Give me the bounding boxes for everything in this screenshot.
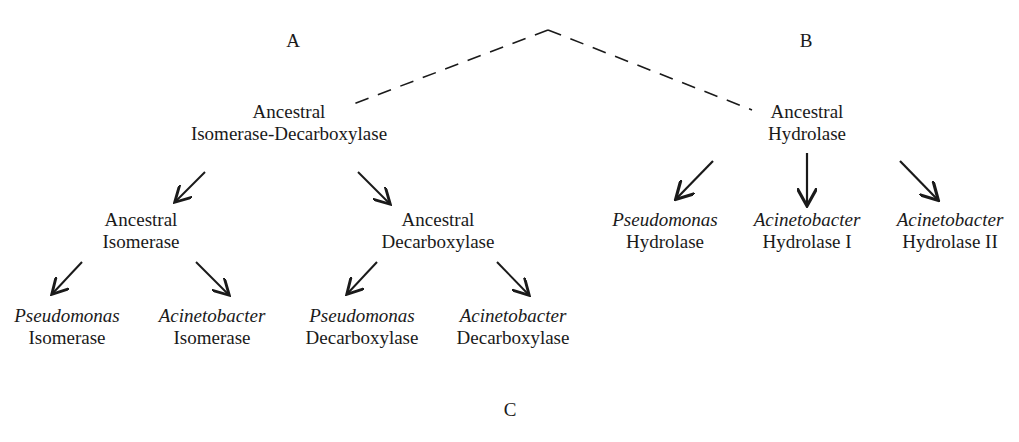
leaf-acinetobacter-decarboxylase: Acinetobacter Decarboxylase [457, 305, 570, 349]
node-ancestral-hydrolase: Ancestral Hydrolase [768, 101, 846, 145]
arrow-to-acineto-hydrolase-2 [900, 161, 937, 199]
panel-label-a: A [286, 30, 300, 52]
node-ancestral-isomerase-decarboxylase: Ancestral Isomerase-Decarboxylase [191, 101, 387, 145]
node-ancestral-decarboxylase: Ancestral Decarboxylase [382, 209, 495, 253]
arrow-to-pseudo-hydrolase [677, 161, 713, 198]
root-branch-right [548, 30, 752, 110]
node-ancestral-isomerase: Ancestral Isomerase [102, 209, 179, 253]
arrow-to-acineto-isomerase [196, 262, 228, 294]
arrow-to-pseudo-decarboxylase [348, 262, 377, 293]
leaf-acinetobacter-isomerase: Acinetobacter Isomerase [159, 305, 266, 349]
arrow-to-pseudo-isomerase [53, 262, 82, 293]
arrow-to-anc-isomerase [176, 172, 205, 201]
leaf-acinetobacter-hydrolase-1: Acinetobacter Hydrolase I [754, 209, 861, 253]
root-branch-left [348, 30, 548, 106]
arrow-to-anc-decarboxylase [358, 172, 389, 203]
leaf-pseudomonas-hydrolase: Pseudomonas Hydrolase [612, 209, 718, 253]
arrow-to-acineto-decarboxylase [497, 262, 528, 294]
leaf-acinetobacter-hydrolase-2: Acinetobacter Hydrolase II [897, 209, 1004, 253]
leaf-pseudomonas-isomerase: Pseudomonas Isomerase [14, 305, 120, 349]
panel-label-c: C [504, 399, 517, 421]
panel-label-b: B [800, 30, 813, 52]
leaf-pseudomonas-decarboxylase: Pseudomonas Decarboxylase [306, 305, 419, 349]
